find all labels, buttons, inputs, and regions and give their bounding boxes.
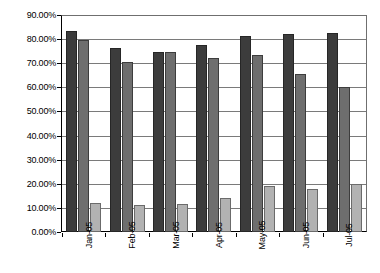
y-axis-tick-label: 0.00% <box>0 227 56 237</box>
y-axis-tick-label: 30.00% <box>0 155 56 165</box>
bar <box>208 58 219 232</box>
y-axis-tick-label: 90.00% <box>0 10 56 20</box>
bar-group <box>279 16 322 232</box>
bar <box>196 45 207 232</box>
bar-groups <box>62 16 366 232</box>
x-axis-tick-mark <box>236 233 237 237</box>
y-axis-tick-label: 40.00% <box>0 131 56 141</box>
bar <box>283 34 294 232</box>
x-axis-tick-label: Mar-05 <box>171 221 181 248</box>
bar-group <box>236 16 279 232</box>
bar <box>66 31 77 232</box>
bar-group <box>105 16 148 232</box>
y-axis-tick-label: 20.00% <box>0 179 56 189</box>
bar <box>327 33 338 232</box>
bar <box>252 55 263 232</box>
y-axis-tick-label: 10.00% <box>0 203 56 213</box>
x-axis-label-cell: Feb-05 <box>105 233 148 273</box>
y-axis-tick-label: 60.00% <box>0 82 56 92</box>
x-axis-label-cell: May-05 <box>236 233 279 273</box>
x-axis-label-cell: Jul-05 <box>323 233 366 273</box>
bar <box>240 36 251 233</box>
y-axis-tick-label: 80.00% <box>0 34 56 44</box>
bar <box>339 87 350 232</box>
x-axis-tick-mark <box>105 233 106 237</box>
bar-group <box>149 16 192 232</box>
x-axis-tick-label: Jun-05 <box>301 222 311 248</box>
x-axis-tick-mark <box>149 233 150 237</box>
x-axis-tick-mark <box>62 233 63 237</box>
x-axis-tick-mark <box>279 233 280 237</box>
x-axis-tick-label: Jul-05 <box>344 223 354 246</box>
x-axis-tick-label: May-05 <box>257 221 267 250</box>
bar-group <box>323 16 366 232</box>
x-axis-label-cell: Mar-05 <box>149 233 192 273</box>
bar <box>78 40 89 232</box>
bar <box>295 74 306 232</box>
x-axis-tick-label: Feb-05 <box>127 221 137 248</box>
bar <box>153 52 164 232</box>
bar-group <box>62 16 105 232</box>
bar <box>165 52 176 232</box>
x-axis-labels: Jan-05Feb-05Mar-05Apr-05May-05Jun-05Jul-… <box>62 233 366 273</box>
x-axis-label-cell: Apr-05 <box>192 233 235 273</box>
y-axis-tick-mark <box>57 232 61 233</box>
bar <box>110 48 121 232</box>
bar-chart: 0.00%10.00%20.00%30.00%40.00%50.00%60.00… <box>0 0 380 273</box>
y-axis-labels: 0.00%10.00%20.00%30.00%40.00%50.00%60.00… <box>0 0 56 273</box>
x-axis-tick-mark <box>323 233 324 237</box>
bar-group <box>192 16 235 232</box>
y-axis-tick-label: 50.00% <box>0 106 56 116</box>
bar <box>122 62 133 232</box>
x-axis-tick-label: Jan-05 <box>84 222 94 248</box>
x-axis-tick-mark <box>192 233 193 237</box>
x-axis-label-cell: Jun-05 <box>279 233 322 273</box>
x-axis-tick-label: Apr-05 <box>214 222 224 248</box>
x-axis-label-cell: Jan-05 <box>62 233 105 273</box>
y-axis-tick-label: 70.00% <box>0 58 56 68</box>
